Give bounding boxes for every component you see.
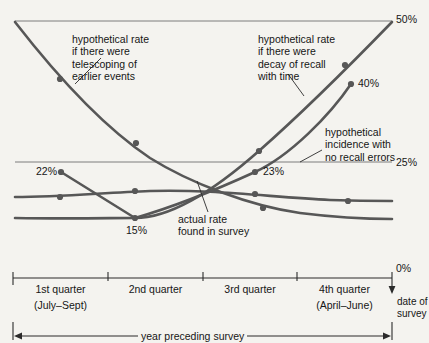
datapoint-marker bbox=[252, 169, 258, 175]
chart-figure: 50% 25% 0% 22% 15% 23% 40% hypothetical … bbox=[0, 0, 429, 343]
no-recall-errors-annotation: hypothetical incidence with no recall er… bbox=[325, 126, 395, 163]
datapoint-label-22: 22% bbox=[36, 165, 57, 177]
datapoint-marker bbox=[57, 76, 63, 82]
datapoint-marker bbox=[132, 215, 138, 221]
telescoping-annotation: hypothetical rate if there were telescop… bbox=[72, 33, 149, 83]
quarter-label-4: 4th quarter bbox=[297, 283, 392, 295]
quarter-label-1: 1st quarter bbox=[13, 283, 108, 295]
datapoint-label-15: 15% bbox=[126, 224, 147, 236]
datapoint-marker bbox=[57, 194, 63, 200]
datapoint-marker bbox=[260, 205, 266, 211]
datapoint-marker bbox=[58, 169, 64, 175]
leader-line-no-recall-errors bbox=[300, 150, 322, 162]
quarter-label-3: 3rd quarter bbox=[203, 283, 297, 295]
y-axis-label-25: 25% bbox=[396, 156, 417, 168]
datapoint-label-40: 40% bbox=[358, 77, 379, 89]
axis-caption: year preceding survey bbox=[138, 330, 247, 342]
datapoint-marker bbox=[252, 191, 258, 197]
datapoint-label-23: 23% bbox=[263, 165, 284, 177]
quarter-label-2: 2nd quarter bbox=[108, 283, 203, 295]
datapoint-marker bbox=[132, 188, 138, 194]
datapoint-marker bbox=[345, 198, 351, 204]
decay-annotation: hypothetical rate if there were decay of… bbox=[258, 33, 335, 83]
y-axis-label-0: 0% bbox=[396, 262, 411, 274]
span-arrow-left-icon bbox=[14, 333, 22, 340]
datapoint-marker bbox=[133, 140, 139, 146]
datapoint-marker bbox=[256, 148, 262, 154]
datapoint-marker bbox=[348, 81, 354, 87]
datapoint-marker bbox=[342, 62, 348, 68]
quarter-sublabel-4: (April–June) bbox=[297, 299, 392, 311]
series-survey-rise-segment bbox=[135, 84, 351, 218]
y-axis-label-50: 50% bbox=[396, 13, 417, 25]
quarter-sublabel-1: (July–Sept) bbox=[13, 299, 108, 311]
span-arrow-right-icon bbox=[383, 333, 391, 340]
actual-rate-annotation: actual rate found in survey bbox=[178, 213, 249, 238]
date-of-survey-label: date of survey bbox=[397, 296, 428, 319]
